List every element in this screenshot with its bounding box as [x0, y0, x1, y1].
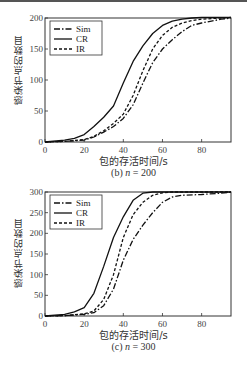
- chart-c-caption: (c) n = 300: [10, 341, 247, 352]
- legend-label-sim: Sim: [76, 198, 91, 208]
- y-tick-label: 200: [30, 13, 44, 23]
- y-tick-label: 0: [39, 137, 44, 147]
- y-tick-label: 200: [30, 228, 44, 238]
- legend-label-sim: Sim: [76, 24, 91, 34]
- y-tick-label: 50: [34, 106, 44, 116]
- chart-c-ylabel: 感染节点的数目: [12, 218, 26, 288]
- y-tick-label: 250: [30, 208, 44, 218]
- y-tick-label: 150: [30, 249, 44, 259]
- chart-b-caption: (b) n = 200: [10, 167, 247, 178]
- caption-prefix: (c): [111, 341, 125, 352]
- chart-b: 020406080050100150200SimCRIR 感染节点的数目 包的存…: [0, 0, 247, 183]
- chart-c-xlabel: 包的存活时间/s: [10, 327, 247, 342]
- caption-prefix: (b): [111, 167, 125, 178]
- chart-b-xlabel: 包的存活时间/s: [10, 153, 247, 168]
- y-tick-label: 150: [30, 44, 44, 54]
- legend-label-ir: IR: [76, 218, 85, 228]
- legend-label-ir: IR: [76, 44, 85, 54]
- y-tick-label: 0: [39, 311, 44, 321]
- caption-suffix: = 300: [130, 341, 156, 352]
- y-tick-label: 100: [30, 75, 44, 85]
- y-tick-label: 50: [34, 290, 44, 300]
- caption-suffix: = 200: [130, 167, 156, 178]
- legend-label-cr: CR: [76, 34, 88, 44]
- y-tick-label: 100: [30, 270, 44, 280]
- chart-c: 020406080050100150200250300SimCRIR 感染节点的…: [0, 183, 247, 366]
- y-tick-label: 300: [30, 187, 44, 197]
- chart-b-ylabel: 感染节点的数目: [12, 35, 26, 105]
- legend-label-cr: CR: [76, 208, 88, 218]
